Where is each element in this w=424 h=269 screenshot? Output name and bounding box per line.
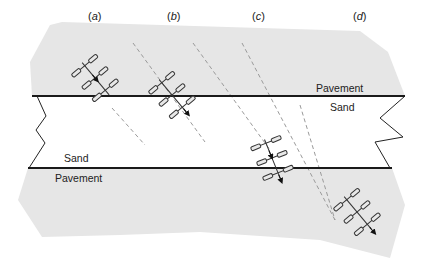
sand-crossing-diagram: (a) (b) (c) (d) Pavement Sand Sand Pavem… [0, 0, 424, 269]
panel-label-a: (a) [88, 10, 101, 22]
right-break-line [375, 96, 405, 168]
bottom-sand-label: Sand [64, 152, 89, 164]
left-break-line [29, 96, 46, 168]
bottom-pavement-label: Pavement [55, 172, 102, 184]
panel-label-d: (d) [353, 10, 366, 22]
top-pavement-label: Pavement [316, 82, 363, 94]
panel-label-c: (c) [252, 10, 265, 22]
panel-label-b: (b) [167, 10, 180, 22]
top-sand-label: Sand [330, 101, 355, 113]
